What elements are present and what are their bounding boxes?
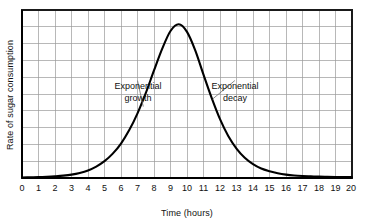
x-tick-label: 19 — [330, 183, 340, 193]
x-tick-label: 20 — [346, 183, 356, 193]
x-tick-label: 0 — [19, 183, 24, 193]
x-tick-label: 9 — [168, 183, 173, 193]
x-tick-label: 16 — [281, 183, 291, 193]
annotation-decay-line1: Exponential — [211, 81, 258, 91]
x-tick-label: 15 — [264, 183, 274, 193]
x-tick-label: 13 — [231, 183, 241, 193]
x-tick-label: 1 — [36, 183, 41, 193]
x-tick-label: 2 — [52, 183, 57, 193]
annotation-growth-line2: growth — [124, 93, 151, 103]
annotation-exponential-decay: Exponential decay — [211, 81, 258, 103]
annotation-exponential-growth: Exponential growth — [114, 81, 161, 103]
x-tick-label: 17 — [297, 183, 307, 193]
x-tick-label: 3 — [69, 183, 74, 193]
annotation-decay-line2: decay — [223, 93, 248, 103]
annotation-growth-line1: Exponential — [114, 81, 161, 91]
x-tick-label: 4 — [85, 183, 90, 193]
x-tick-label: 5 — [102, 183, 107, 193]
x-tick-label: 11 — [199, 183, 208, 193]
x-tick-labels: 0 1 2 3 4 5 6 7 8 9 10 11 12 13 14 15 16… — [19, 183, 356, 193]
chart-canvas: 0 1 2 3 4 5 6 7 8 9 10 11 12 13 14 15 16… — [0, 0, 371, 222]
x-tick-label: 14 — [248, 183, 258, 193]
x-tick-label: 8 — [151, 183, 156, 193]
x-tick-label: 10 — [182, 183, 192, 193]
x-tick-label: 12 — [215, 183, 225, 193]
x-tick-label: 7 — [135, 183, 140, 193]
x-tick-label: 18 — [314, 183, 324, 193]
x-tick-label: 6 — [118, 183, 123, 193]
chart-figure: 0 1 2 3 4 5 6 7 8 9 10 11 12 13 14 15 16… — [0, 0, 371, 222]
